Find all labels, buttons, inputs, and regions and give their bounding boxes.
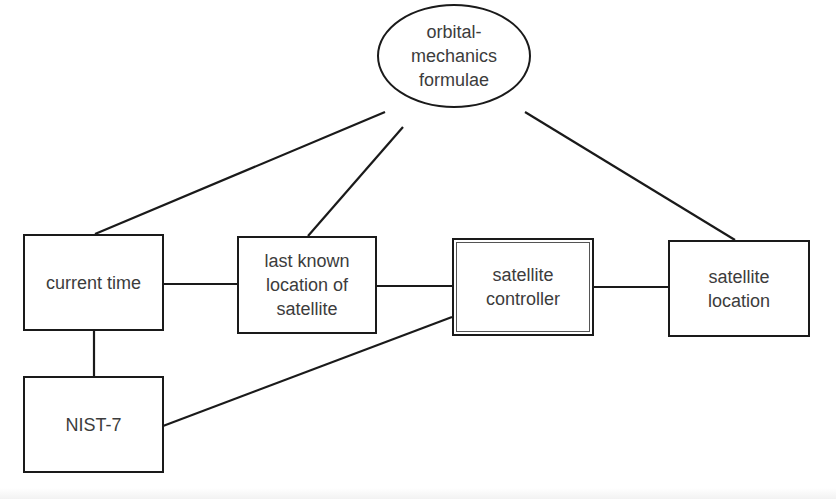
node-last-known-location: last known location of satellite [237,236,377,334]
edge-orbital-last-known [308,127,403,236]
edge-orbital-satellite-location [525,112,735,240]
node-orbital-mechanics-formulae: orbital- mechanics formulae [377,4,531,108]
node-label: NIST-7 [65,413,121,437]
node-label: orbital- mechanics formulae [411,20,497,92]
node-current-time: current time [23,234,164,331]
node-label: current time [46,271,141,295]
node-label: satellite location [708,265,770,313]
edge-orbital-current-time [95,112,385,234]
node-label: satellite controller [486,263,560,311]
page-edge [0,488,836,499]
node-satellite-controller: satellite controller [452,238,594,336]
node-nist-7: NIST-7 [23,376,164,473]
node-label: last known location of satellite [264,249,349,321]
node-satellite-location: satellite location [668,240,810,337]
